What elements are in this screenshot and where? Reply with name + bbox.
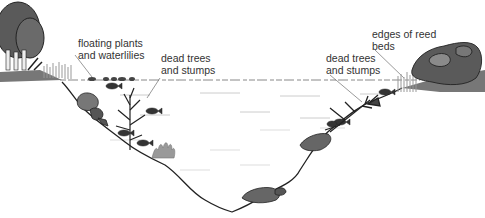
underwater-weed-icon bbox=[152, 143, 175, 158]
fish-icon bbox=[137, 140, 153, 146]
water-surface bbox=[60, 80, 420, 170]
fish-icon bbox=[118, 130, 134, 136]
label-reed-beds: edges of reed beds bbox=[372, 28, 436, 52]
fish-icon bbox=[146, 108, 162, 114]
fish-icon bbox=[106, 83, 122, 89]
label-dead-trees-right: dead trees and stumps bbox=[326, 52, 380, 76]
bottom-rocks-icon bbox=[242, 187, 286, 202]
left-trees-icon bbox=[0, 2, 44, 70]
left-rocks-icon bbox=[77, 93, 108, 126]
label-floating-plants: floating plants and waterlilies bbox=[78, 37, 145, 61]
right-rocks-icon bbox=[300, 133, 331, 150]
lake-bed-outline bbox=[62, 82, 402, 212]
label-dead-trees-left: dead trees and stumps bbox=[161, 52, 215, 76]
fish-icon bbox=[379, 89, 395, 95]
